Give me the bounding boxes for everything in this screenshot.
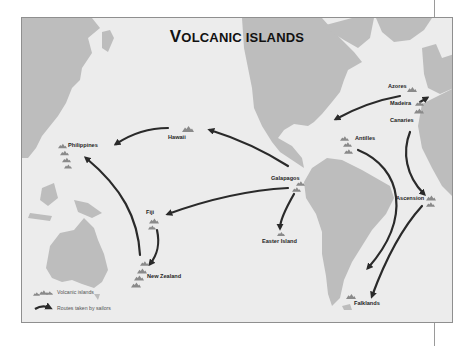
azores-volcano-icon bbox=[407, 87, 417, 92]
route-fiji-nz bbox=[150, 230, 158, 264]
legend-routes: Routes taken by sailors bbox=[57, 305, 111, 311]
map-frame: VOLCANIC ISLANDS Azores Madeira Canaries… bbox=[21, 17, 453, 323]
land-masses bbox=[22, 18, 453, 310]
label-ascension: Ascension bbox=[396, 195, 424, 201]
label-new-zealand: New Zealand bbox=[147, 273, 181, 279]
route-galapagos-easter bbox=[280, 194, 294, 228]
hawaii-volcano-icon bbox=[182, 126, 194, 132]
label-easter-island: Easter Island bbox=[262, 238, 297, 244]
route-hawaii-philippines bbox=[116, 128, 168, 144]
easter-island-volcano-icon bbox=[277, 232, 285, 236]
legend-volcano-icon bbox=[33, 292, 40, 296]
antilles-volcano-icon bbox=[340, 136, 349, 141]
legend-volcanic-islands: Volcanic islands bbox=[57, 289, 94, 295]
label-antilles: Antilles bbox=[355, 135, 375, 141]
new-zealand-volcano-icon bbox=[140, 261, 149, 266]
label-galapagos: Galapagos bbox=[271, 175, 300, 181]
fiji-volcano-icon bbox=[149, 219, 159, 224]
philippines-volcano-icon bbox=[58, 144, 67, 149]
label-falklands: Falklands bbox=[354, 300, 380, 306]
route-galapagos-fiji bbox=[168, 188, 288, 214]
title-rest: OLCANIC ISLANDS bbox=[181, 30, 304, 45]
margin-rule-bottom bbox=[434, 323, 435, 346]
label-hawaii: Hawaii bbox=[168, 134, 186, 140]
label-madeira: Madeira bbox=[390, 100, 411, 106]
label-canaries: Canaries bbox=[390, 117, 414, 123]
label-philippines: Philippines bbox=[68, 142, 98, 148]
label-fiji: Fiji bbox=[146, 209, 154, 215]
madeira-volcano-icon bbox=[415, 101, 424, 106]
legend-icons bbox=[33, 290, 53, 309]
galapagos-volcano-icon bbox=[296, 181, 305, 186]
title-initial: V bbox=[170, 27, 182, 46]
route-madeira-arrow bbox=[420, 98, 427, 102]
falklands-volcano-icon bbox=[346, 294, 356, 299]
legend-route-arrow-icon bbox=[35, 307, 50, 309]
world-map bbox=[22, 18, 453, 323]
label-azores: Azores bbox=[388, 83, 407, 89]
margin-rule-top bbox=[434, 0, 435, 17]
map-title: VOLCANIC ISLANDS bbox=[22, 27, 452, 47]
ascension-volcano-icon bbox=[426, 196, 436, 201]
